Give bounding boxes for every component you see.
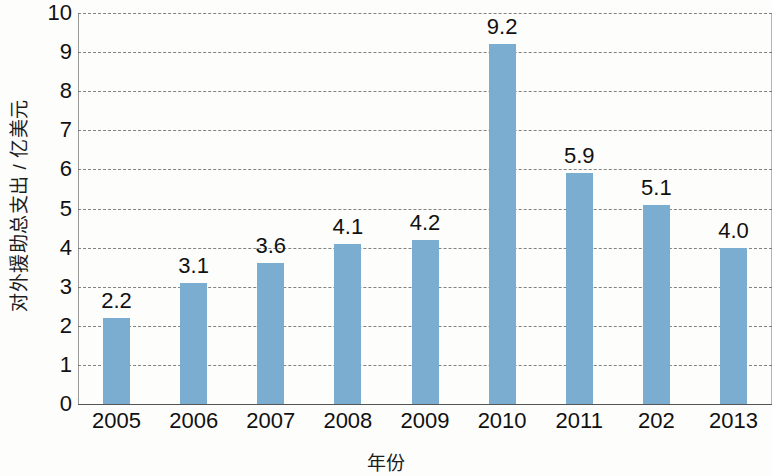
bar [566, 173, 593, 404]
y-axis-tick-labels: 109876543210 [38, 0, 72, 420]
y-tick-label: 5 [42, 198, 72, 220]
y-tick-label: 1 [42, 354, 72, 376]
bar [412, 240, 439, 404]
bar-chart: 对外援助总支出 / 亿美元 109876543210 2.23.13.64.14… [0, 0, 772, 476]
bar [489, 44, 516, 404]
x-tick-label: 2009 [385, 410, 465, 432]
x-tick-label: 2005 [77, 410, 157, 432]
gridline [78, 13, 772, 14]
x-axis-tick-labels: 20052006200720082009201020112022013 [78, 410, 772, 442]
bar-value-label: 9.2 [467, 16, 537, 38]
y-tick-label: 3 [42, 276, 72, 298]
x-tick-label: 202 [616, 410, 696, 432]
x-tick-label: 2010 [462, 410, 542, 432]
bar [720, 248, 747, 404]
y-tick-label: 9 [42, 41, 72, 63]
bar-value-label: 4.0 [698, 220, 768, 242]
bar-value-label: 5.1 [621, 177, 691, 199]
gridline [78, 404, 772, 405]
y-axis-title-text: 对外援助总支出 / 亿美元 [4, 99, 31, 311]
bar-value-label: 4.1 [313, 216, 383, 238]
bar [103, 318, 130, 404]
bar [257, 263, 284, 404]
gridline [78, 52, 772, 53]
y-tick-label: 0 [42, 393, 72, 415]
bar [334, 244, 361, 404]
bar-value-label: 3.6 [236, 235, 306, 257]
y-tick-label: 7 [42, 119, 72, 141]
bar [643, 205, 670, 404]
gridline [78, 169, 772, 170]
gridline [78, 91, 772, 92]
y-axis-title: 对外援助总支出 / 亿美元 [0, 0, 34, 410]
bar-value-label: 4.2 [390, 212, 460, 234]
x-axis-title: 年份 [0, 448, 772, 475]
x-tick-label: 2011 [539, 410, 619, 432]
bar-value-label: 3.1 [159, 255, 229, 277]
x-tick-label: 2013 [693, 410, 772, 432]
y-tick-label: 2 [42, 315, 72, 337]
bar [180, 283, 207, 404]
x-tick-label: 2008 [308, 410, 388, 432]
x-tick-label: 2007 [231, 410, 311, 432]
bar-value-label: 2.2 [82, 290, 152, 312]
y-tick-label: 8 [42, 80, 72, 102]
bar-value-label: 5.9 [544, 145, 614, 167]
y-tick-label: 6 [42, 158, 72, 180]
plot-area: 2.23.13.64.14.29.25.95.14.0 [78, 13, 772, 404]
gridline [78, 130, 772, 131]
x-tick-label: 2006 [154, 410, 234, 432]
y-tick-label: 4 [42, 237, 72, 259]
y-tick-label: 10 [42, 2, 72, 24]
